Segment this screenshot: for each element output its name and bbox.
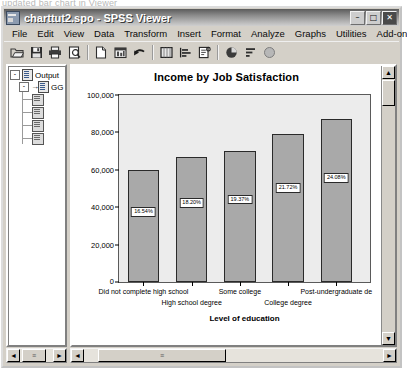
y-tick-label: 40,000	[91, 203, 114, 212]
selection-arrow-icon: →	[31, 83, 37, 91]
pie-chart-icon[interactable]	[222, 44, 240, 62]
tree-branch-2	[22, 112, 32, 113]
menu-analyze[interactable]: Analyze	[246, 27, 290, 40]
outline-pane[interactable]: - Output - → GG	[6, 64, 67, 347]
table-icon	[32, 120, 44, 132]
expander-output[interactable]: -	[10, 70, 20, 80]
outline-label-output: Output	[35, 71, 59, 80]
bar-data-label: 19.37%	[228, 195, 253, 205]
x-tick-mark	[143, 282, 144, 286]
bar-post-undergraduate-degree[interactable]: 24.08%	[321, 119, 352, 282]
document-pane[interactable]: Income by Job Satisfaction Mean Househol…	[70, 64, 397, 347]
export-document-icon[interactable]	[92, 44, 110, 62]
client-area: - Output - → GG	[6, 64, 397, 363]
insert-chart-icon[interactable]	[111, 44, 129, 62]
save-icon[interactable]	[27, 44, 45, 62]
toolbar-separator-3	[217, 45, 219, 60]
variables-icon[interactable]	[195, 44, 213, 62]
list-item[interactable]	[10, 107, 63, 119]
bar-some-college[interactable]: 19.37%	[224, 151, 255, 282]
chart-area[interactable]: Income by Job Satisfaction Mean Househol…	[72, 66, 381, 345]
y-tick-label: 100,000	[87, 91, 114, 100]
bar-did-not-complete-high-school[interactable]: 16.54%	[128, 170, 159, 282]
close-glyph: ✕	[386, 14, 393, 22]
bar-college-degree[interactable]: 21.72%	[272, 134, 303, 282]
spss-viewer-icon	[6, 11, 20, 25]
y-tick-mark	[115, 169, 119, 170]
document-scroll-thumb[interactable]: ≡	[98, 349, 226, 362]
document-scroll-left-button[interactable]: ◄	[71, 349, 84, 362]
y-tick-label: 0	[110, 277, 114, 286]
menu-file[interactable]: File	[7, 27, 32, 40]
minimize-glyph: –	[356, 14, 360, 22]
document-scroll-right-button[interactable]: ►	[383, 349, 396, 362]
print-preview-icon[interactable]	[65, 44, 83, 62]
window-controls: – □ ✕	[350, 11, 397, 25]
toolbar-separator-2	[152, 45, 154, 60]
list-item[interactable]	[10, 133, 63, 145]
close-button[interactable]: ✕	[382, 11, 397, 25]
dialog-recall-icon[interactable]	[157, 44, 175, 62]
sort-icon[interactable]	[241, 44, 259, 62]
outline-scroll-thumb[interactable]: ≡	[22, 349, 46, 362]
menu-insert[interactable]: Insert	[172, 27, 206, 40]
x-category-label: Post-undergraduate de	[300, 288, 372, 295]
outline-tree: - Output - → GG	[8, 66, 65, 345]
scroll-down-button[interactable]: ▼	[382, 332, 395, 345]
outline-scroll-track[interactable]: ≡	[20, 349, 53, 362]
select-cases-icon[interactable]	[260, 44, 278, 62]
outline-item-output[interactable]: - Output	[10, 69, 63, 81]
menu-view[interactable]: View	[59, 27, 89, 40]
maximize-glyph: □	[370, 14, 378, 22]
x-tick-mark	[192, 282, 193, 286]
table-icon	[32, 133, 44, 145]
tree-branch-4	[22, 138, 32, 139]
outline-label-ggraph: GG	[51, 83, 63, 92]
menu-utilities[interactable]: Utilities	[331, 27, 372, 40]
undo-icon[interactable]	[130, 44, 148, 62]
x-category-label: College degree	[264, 299, 311, 306]
bar-data-label: 21.72%	[276, 183, 301, 193]
bar-high-school-degree[interactable]: 18.20%	[176, 157, 207, 282]
plot-area: 100,000 80,000 60,000 40,000 20,000 0	[118, 94, 371, 283]
outline-scroll-left-button[interactable]: ◄	[7, 349, 20, 362]
y-tick-label: 20,000	[91, 240, 114, 249]
menu-edit[interactable]: Edit	[32, 27, 58, 40]
maximize-button[interactable]: □	[366, 11, 381, 25]
menu-transform[interactable]: Transform	[119, 27, 172, 40]
list-item[interactable]	[10, 94, 63, 106]
menu-format[interactable]: Format	[206, 27, 246, 40]
document-vertical-scrollbar[interactable]: ▲ ▼	[381, 66, 395, 345]
title-bar: charttut2.spo - SPSS Viewer – □ ✕	[4, 9, 399, 26]
bottom-scrollbars: ◄ ≡ ► ◄ ≡ ►	[6, 348, 397, 363]
document-scroll-track[interactable]: ≡	[84, 349, 383, 362]
y-tick-mark	[115, 207, 119, 208]
expander-ggraph[interactable]: -	[19, 82, 29, 92]
goto-data-icon[interactable]	[176, 44, 194, 62]
outline-scroll-right-button[interactable]: ►	[53, 349, 66, 362]
bar-data-label: 16.54%	[131, 207, 156, 217]
print-icon[interactable]	[46, 44, 64, 62]
table-icon	[32, 94, 44, 106]
bar-data-label: 24.08%	[324, 173, 349, 183]
y-tick-label: 80,000	[91, 128, 114, 137]
scroll-up-button[interactable]: ▲	[382, 66, 395, 79]
x-category-label: Some college	[219, 288, 261, 295]
list-item[interactable]	[10, 120, 63, 132]
toolbar	[4, 41, 399, 63]
y-tick-mark	[115, 95, 119, 96]
vertical-scroll-thumb[interactable]	[382, 80, 395, 106]
application-window: charttut2.spo - SPSS Viewer – □ ✕ File E…	[1, 6, 402, 368]
y-tick-mark	[115, 244, 119, 245]
outline-item-ggraph[interactable]: - → GG	[10, 81, 63, 93]
minimize-button[interactable]: –	[350, 11, 365, 25]
y-tick-label: 60,000	[91, 165, 114, 174]
output-document-icon	[22, 69, 33, 81]
open-file-icon[interactable]	[8, 44, 26, 62]
y-tick-mark	[115, 132, 119, 133]
outline-horizontal-scrollbar[interactable]: ◄ ≡ ►	[6, 348, 67, 363]
menu-graphs[interactable]: Graphs	[290, 27, 331, 40]
menu-add-ons[interactable]: Add-ons	[372, 27, 407, 40]
document-horizontal-scrollbar[interactable]: ◄ ≡ ►	[70, 348, 397, 363]
menu-data[interactable]: Data	[89, 27, 119, 40]
